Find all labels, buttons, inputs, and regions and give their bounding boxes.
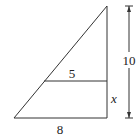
triangle: [14, 6, 107, 118]
label-height: 10: [123, 53, 136, 68]
label-top-segment: 5: [69, 66, 76, 81]
label-base: 8: [57, 122, 64, 137]
label-x: x: [110, 91, 117, 106]
triangle-diagram: 5 8 10 x: [0, 0, 140, 138]
